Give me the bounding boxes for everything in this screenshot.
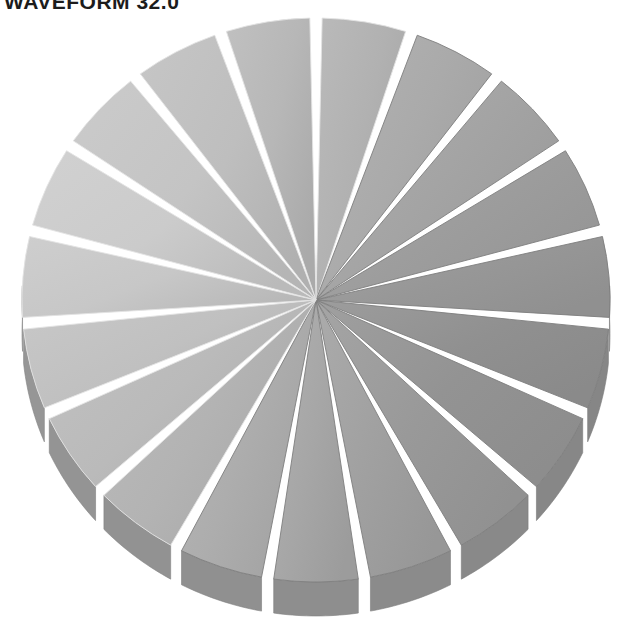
pie-slice-wall [274,579,359,616]
page-title: WAVEFORM 32.0 [4,0,179,14]
pie-chart [0,0,633,634]
pie-chart-svg [0,0,633,634]
pie-top-faces [22,18,610,582]
